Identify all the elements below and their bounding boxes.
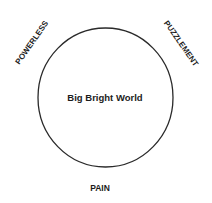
- center-label: Big Bright World: [67, 92, 142, 103]
- label-puzzlement: PUZZLEMENT: [162, 19, 200, 68]
- label-pain: PAIN: [90, 183, 110, 193]
- label-powerless: POWERLESS: [14, 19, 51, 67]
- diagram-canvas: Big Bright World POWERLESS PUZZLEMENT PA…: [0, 0, 212, 203]
